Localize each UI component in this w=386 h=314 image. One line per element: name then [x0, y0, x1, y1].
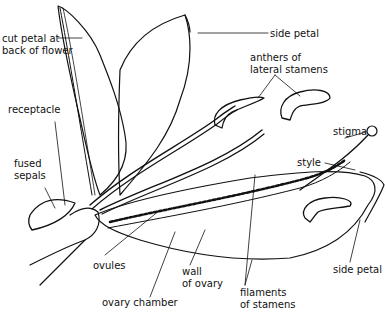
anther-2 [281, 90, 330, 120]
anther-1 [214, 97, 264, 128]
label-side-petal-bottom: side petal [333, 264, 382, 276]
label-anthers: anthers of lateral stamens [250, 52, 328, 76]
label-side-petal-top: side petal [270, 28, 319, 40]
side-petal-bottom-shape [360, 172, 384, 222]
label-ovules: ovules [93, 260, 126, 272]
label-fused-sepals: fused sepals [14, 158, 46, 182]
label-receptacle: receptacle [8, 104, 61, 116]
side-petal-top-shape [119, 15, 191, 195]
label-filaments: filaments of stamens [240, 287, 296, 311]
anther-3 [304, 197, 351, 222]
flower-diagram: cut petal at back of flower side petal a… [0, 0, 386, 314]
label-wall-of-ovary: wall of ovary [182, 266, 223, 290]
label-ovary-chamber: ovary chamber [102, 297, 178, 309]
label-style: style [297, 157, 321, 169]
label-cut-petal: cut petal at back of flower [2, 33, 73, 57]
label-stigma: stigma [333, 126, 367, 138]
filament-1 [90, 106, 235, 205]
stigma-shape [367, 126, 377, 136]
fused-sepals-shape [29, 200, 75, 230]
